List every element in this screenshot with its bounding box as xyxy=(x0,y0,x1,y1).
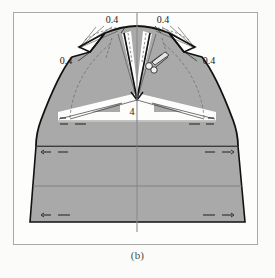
figure-caption: (b) xyxy=(0,249,275,261)
label-dart-side-left: 0.4 xyxy=(60,55,73,66)
pattern-drawing: 0.4 0.4 0.4 0.4 4 xyxy=(0,0,275,278)
figure-container: 0.4 0.4 0.4 0.4 4 (b) xyxy=(0,0,275,278)
label-dart-top-right: 0.4 xyxy=(157,14,170,25)
label-dart-side-right: 0.4 xyxy=(203,55,216,66)
label-dart-top-left: 0.4 xyxy=(106,14,119,25)
label-center-depth: 4 xyxy=(130,106,135,117)
